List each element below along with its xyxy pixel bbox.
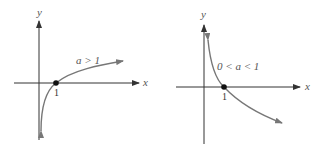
tick-label-1: 1: [222, 91, 227, 102]
point-1-0: [53, 80, 59, 86]
annotation-0-lt-a-lt-1: 0 < a < 1: [217, 60, 259, 72]
log-graphs: x y 1 a > 1 x y 1 0 < a < 1: [0, 0, 318, 158]
graph-right: x y 1 0 < a < 1: [176, 8, 310, 144]
x-axis-label: x: [142, 76, 148, 88]
annotation-a-gt-1: a > 1: [76, 54, 100, 66]
tick-label-1: 1: [54, 87, 59, 98]
x-axis-label: x: [304, 80, 310, 92]
graph-left: x y 1 a > 1: [14, 6, 148, 140]
curve-decreasing: [208, 40, 282, 123]
y-axis-label: y: [36, 6, 42, 18]
y-axis-label: y: [200, 8, 206, 20]
point-1-0: [221, 84, 227, 90]
